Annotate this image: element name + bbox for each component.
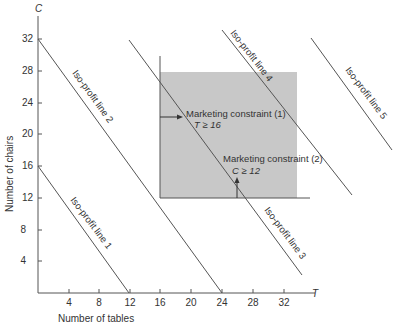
x-tick-label: 16 xyxy=(154,297,166,308)
feasible-region xyxy=(160,72,297,198)
constraint-1-title: Marketing constraint (1) xyxy=(186,108,286,119)
x-axis-title: Number of tables xyxy=(58,313,134,324)
y-tick-label: 32 xyxy=(22,33,34,44)
iso-profit-line-1-label: Iso-profit line 1 xyxy=(68,195,114,251)
x-tick-label: 8 xyxy=(96,297,102,308)
y-tick-label: 16 xyxy=(22,160,34,171)
y-ticks: 4 8 12 16 20 24 28 32 xyxy=(20,33,42,266)
x-ticks: 4 8 12 16 20 24 28 32 xyxy=(66,289,290,308)
y-tick-label: 4 xyxy=(20,255,26,266)
x-tick-label: 24 xyxy=(216,297,228,308)
constraint-2-expression: C ≥ 12 xyxy=(232,165,261,176)
x-axis-variable: T xyxy=(312,288,319,299)
iso-profit-line-2-label: Iso-profit line 2 xyxy=(70,68,116,125)
y-tick-label: 20 xyxy=(22,128,34,139)
y-axis-variable: C xyxy=(35,3,43,14)
y-tick-label: 28 xyxy=(22,65,34,76)
x-tick-label: 32 xyxy=(278,297,290,308)
iso-profit-line-5 xyxy=(311,38,392,150)
iso-profit-line-1 xyxy=(38,166,129,293)
x-axis: T xyxy=(38,288,319,299)
y-axis: C xyxy=(35,3,43,293)
y-tick-label: 24 xyxy=(22,97,34,108)
y-tick-label: 8 xyxy=(20,224,26,235)
iso-profit-chart: C T 4 8 12 16 20 24 28 32 4 8 12 16 20 xyxy=(0,0,408,326)
constraint-2-title: Marketing constraint (2) xyxy=(223,153,323,164)
x-tick-label: 12 xyxy=(124,297,136,308)
x-tick-label: 4 xyxy=(66,297,72,308)
y-tick-label: 12 xyxy=(22,192,34,203)
y-axis-title: Number of chairs xyxy=(4,136,15,212)
constraint-1-expression: T ≥ 16 xyxy=(194,119,222,130)
x-tick-label: 20 xyxy=(185,297,197,308)
x-tick-label: 28 xyxy=(247,297,259,308)
